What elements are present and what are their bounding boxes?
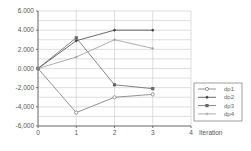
marker xyxy=(205,104,208,107)
x-tick-label: 0 xyxy=(36,129,40,136)
y-tick-label: 2.000 xyxy=(18,46,35,53)
x-tick-label: 4 xyxy=(189,129,193,136)
y-tick-label: 0.000 xyxy=(18,65,35,72)
legend-label: dp4 xyxy=(224,111,235,117)
marker xyxy=(205,87,208,90)
grid-lines xyxy=(38,11,191,126)
y-tick-label: -2,000 xyxy=(16,84,35,91)
x-tick-label: 3 xyxy=(151,129,155,136)
legend-label: dp2 xyxy=(224,94,235,100)
marker xyxy=(75,36,78,39)
x-axis-title: Iteration xyxy=(199,129,223,136)
y-tick-label: -6,000 xyxy=(16,122,35,129)
legend: dp1dp2dp3dp4 xyxy=(194,83,242,121)
marker xyxy=(113,83,116,86)
marker xyxy=(75,111,78,114)
y-tick-label: 4.000 xyxy=(18,26,35,33)
y-tick-label: -4,000 xyxy=(16,103,35,110)
marker xyxy=(151,93,154,96)
x-tick-label: 2 xyxy=(113,129,117,136)
line-chart: 6.0004.0002.0000.000-2,000-4,000-6,00001… xyxy=(0,0,251,151)
marker xyxy=(151,28,154,31)
y-tick-label: 6.000 xyxy=(18,7,35,14)
marker xyxy=(113,28,116,31)
x-tick-label: 1 xyxy=(74,129,78,136)
series-dp4 xyxy=(37,38,155,70)
marker xyxy=(113,96,116,99)
legend-label: dp3 xyxy=(224,103,235,109)
marker xyxy=(151,87,154,90)
data-series xyxy=(36,28,154,114)
series-dp3 xyxy=(36,36,154,90)
legend-label: dp1 xyxy=(224,86,235,92)
